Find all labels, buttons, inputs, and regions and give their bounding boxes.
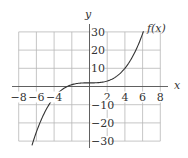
y-tick-label: −10 — [91, 99, 114, 112]
axes — [12, 24, 168, 148]
y-tick-label: 30 — [91, 26, 105, 39]
y-tick-label: 20 — [91, 44, 105, 57]
curve-f-of-x — [32, 31, 144, 145]
curve-label: f(x) — [146, 22, 166, 35]
function-plot: −8−6−42468302010−10−20−30 x y f(x) — [0, 0, 188, 158]
x-tick-label: −8 — [11, 91, 27, 104]
y-tick-label: −30 — [91, 135, 114, 148]
y-axis-label: y — [84, 8, 92, 21]
y-tick-label: 10 — [91, 62, 105, 75]
x-tick-label: 8 — [157, 91, 164, 104]
x-axis-label: x — [174, 79, 181, 92]
x-tick-label: 6 — [139, 91, 146, 104]
tick-labels: −8−6−42468302010−10−20−30 — [11, 26, 165, 148]
x-tick-label: −6 — [28, 91, 44, 104]
x-tick-label: 4 — [121, 91, 128, 104]
x-tick-label: −4 — [46, 91, 62, 104]
y-tick-label: −20 — [91, 117, 114, 130]
